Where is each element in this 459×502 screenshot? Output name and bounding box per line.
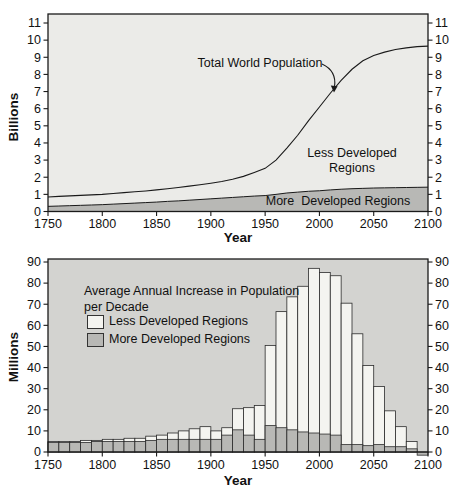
bar-more-developed bbox=[243, 435, 254, 452]
y-tick-label: 10 bbox=[27, 33, 41, 47]
bar-more-developed bbox=[352, 445, 363, 452]
bar-more-developed bbox=[124, 441, 135, 452]
top-y-axis-title: Billions bbox=[6, 87, 22, 147]
x-tick-label: 2050 bbox=[360, 217, 388, 231]
top-x-axis-title: Year bbox=[208, 230, 268, 246]
y-tick-label: 20 bbox=[27, 403, 41, 417]
x-tick-label: 1900 bbox=[197, 217, 225, 231]
y-tick-label: 4 bbox=[34, 136, 41, 150]
bar-more-developed bbox=[287, 430, 298, 452]
y-tick-label: 4 bbox=[435, 136, 442, 150]
y-tick-label: 3 bbox=[34, 153, 41, 167]
y-tick-label: 80 bbox=[435, 276, 449, 290]
bar-more-developed bbox=[135, 441, 146, 452]
y-tick-label: 60 bbox=[435, 319, 449, 333]
x-tick-label: 1950 bbox=[251, 217, 279, 231]
bar-more-developed bbox=[91, 441, 102, 452]
bottom-chart-title: Average Annual Increase in Population pe… bbox=[84, 283, 334, 316]
y-tick-label: 2 bbox=[34, 171, 41, 185]
bar-more-developed bbox=[59, 443, 70, 452]
y-tick-label: 10 bbox=[27, 424, 41, 438]
bar-more-developed bbox=[385, 447, 396, 452]
bar-more-developed bbox=[189, 439, 200, 452]
bar-more-developed bbox=[363, 446, 374, 452]
y-tick-label: 3 bbox=[435, 153, 442, 167]
y-tick-label: 5 bbox=[435, 119, 442, 133]
x-tick-label: 1800 bbox=[88, 458, 116, 472]
y-tick-label: 7 bbox=[435, 85, 442, 99]
y-tick-label: 30 bbox=[27, 382, 41, 396]
y-tick-label: 30 bbox=[435, 382, 449, 396]
y-tick-label: 50 bbox=[27, 340, 41, 354]
bar-more-developed bbox=[233, 430, 244, 452]
bar-less-developed bbox=[287, 297, 298, 452]
total-world-population-label: Total World Population bbox=[190, 56, 330, 71]
bar-more-developed bbox=[70, 443, 81, 452]
x-tick-label: 1900 bbox=[197, 458, 225, 472]
bar-more-developed bbox=[146, 440, 157, 452]
y-tick-label: 40 bbox=[435, 361, 449, 375]
y-tick-label: 7 bbox=[34, 85, 41, 99]
legend-swatch-more-developed bbox=[87, 333, 104, 347]
y-tick-label: 10 bbox=[435, 424, 449, 438]
bar-more-developed bbox=[341, 445, 352, 452]
bar-less-developed bbox=[352, 334, 363, 452]
bar-more-developed bbox=[265, 426, 276, 452]
y-tick-label: 9 bbox=[34, 51, 41, 65]
bottom-y-axis-title: Millions bbox=[6, 327, 22, 387]
y-tick-label: 8 bbox=[34, 68, 41, 82]
bar-less-developed bbox=[385, 411, 396, 452]
y-tick-label: 60 bbox=[27, 319, 41, 333]
bar-more-developed bbox=[113, 441, 124, 452]
x-tick-label: 2000 bbox=[306, 458, 334, 472]
x-tick-label: 1750 bbox=[34, 458, 62, 472]
bar-more-developed bbox=[178, 439, 189, 452]
y-tick-label: 40 bbox=[27, 361, 41, 375]
x-tick-label: 1750 bbox=[34, 217, 62, 231]
bar-more-developed bbox=[48, 443, 59, 452]
bar-more-developed bbox=[222, 435, 233, 452]
bar-more-developed bbox=[211, 439, 222, 452]
y-tick-label: 9 bbox=[435, 51, 442, 65]
y-tick-label: 70 bbox=[435, 298, 449, 312]
bar-more-developed bbox=[374, 445, 385, 452]
y-tick-label: 20 bbox=[435, 403, 449, 417]
x-tick-label: 1950 bbox=[251, 458, 279, 472]
bar-more-developed bbox=[167, 439, 178, 452]
bar-more-developed bbox=[157, 439, 168, 452]
y-tick-label: 8 bbox=[435, 68, 442, 82]
bar-more-developed bbox=[395, 447, 406, 452]
x-tick-label: 1850 bbox=[143, 217, 171, 231]
top-plot-background bbox=[48, 14, 428, 212]
bar-more-developed bbox=[319, 434, 330, 452]
bar-more-developed bbox=[200, 439, 211, 452]
y-tick-label: 70 bbox=[27, 298, 41, 312]
y-tick-label: 90 bbox=[435, 255, 449, 269]
x-tick-label: 2050 bbox=[360, 458, 388, 472]
y-tick-label: 11 bbox=[28, 16, 41, 30]
bar-more-developed bbox=[254, 439, 265, 452]
x-tick-label: 2100 bbox=[414, 217, 442, 231]
legend-label-more-developed: More Developed Regions bbox=[109, 332, 250, 346]
y-tick-label: 80 bbox=[27, 276, 41, 290]
y-tick-label: 11 bbox=[435, 16, 448, 30]
x-tick-label: 2100 bbox=[414, 458, 442, 472]
bar-more-developed bbox=[309, 433, 320, 452]
bottom-x-axis-title: Year bbox=[208, 473, 268, 489]
x-tick-label: 1800 bbox=[88, 217, 116, 231]
bar-less-developed bbox=[363, 365, 374, 452]
y-tick-label: 10 bbox=[435, 33, 449, 47]
y-tick-label: 50 bbox=[435, 340, 449, 354]
y-tick-label: 6 bbox=[435, 102, 442, 116]
x-tick-label: 1850 bbox=[143, 458, 171, 472]
more-developed-regions-label: More Developed Regions bbox=[253, 194, 423, 209]
bar-less-developed bbox=[374, 387, 385, 452]
bar-less-developed bbox=[341, 303, 352, 452]
y-tick-label: 2 bbox=[435, 171, 442, 185]
bar-more-developed bbox=[298, 432, 309, 452]
y-tick-label: 1 bbox=[34, 188, 41, 202]
less-developed-regions-label: Less Developed Regions bbox=[292, 146, 412, 177]
y-tick-label: 5 bbox=[34, 119, 41, 133]
bar-more-developed bbox=[276, 428, 287, 452]
y-tick-label: 1 bbox=[435, 188, 442, 202]
